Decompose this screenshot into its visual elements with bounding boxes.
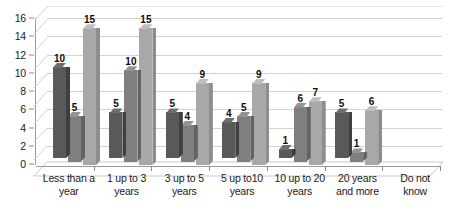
y-axis-tick-mark [29,18,34,19]
bar-value-label: 1 [354,139,360,149]
bar-value-label: 10 [125,57,136,67]
bar-value-label: 5 [339,99,345,109]
x-axis-line [36,166,440,167]
x-axis-tick-mark [94,166,95,171]
x-axis-label-line: 3 up to 5 [155,172,213,185]
y-axis-tick-mark [29,72,34,73]
x-axis-labels: Less than ayear1 up to 3years3 up to 5ye… [40,172,450,214]
x-axis-tick-mark [382,166,383,171]
y-axis-tick-label: 0 [20,158,26,170]
bar-side [96,28,100,165]
x-axis-category-label: 20 yearsand more [329,172,387,198]
x-axis-label-line: 5 up to10 [213,172,271,185]
bar-value-label: 4 [226,109,232,119]
bar-value-label: 4 [185,112,191,122]
x-axis-label-line: years [213,185,271,198]
x-axis-label-line: 20 years [329,172,387,185]
bar-side [348,112,352,158]
bar-face [222,122,235,159]
x-axis-label-line: Do not [386,172,444,185]
x-axis-label-line: know [386,185,444,198]
x-axis-label-line: 1 up to 3 [98,172,156,185]
y-axis-tick-label: 16 [15,12,26,24]
y-axis-tick-label: 12 [15,49,26,61]
bar-face [166,112,179,158]
y-axis-tick-label: 10 [15,67,26,79]
bar-face [335,112,348,158]
bar-chart: 1614121086420 1051551015549459167516 Les… [0,0,453,216]
bar-value-label: 15 [84,15,95,25]
x-axis-tick-mark [209,166,210,171]
x-axis-label-line: years [271,185,329,198]
bar-group: 516 [335,6,391,158]
bar-face [53,67,66,158]
bar-group [392,6,448,158]
y-axis-tick-label: 4 [20,122,26,134]
x-axis-category-label: 3 up to 5years [155,172,213,198]
x-axis-category-label: 10 up to 20years [271,172,329,198]
y-axis: 1614121086420 [0,18,36,164]
bar-group: 167 [279,6,335,158]
bar[interactable]: 4 [222,122,235,159]
y-axis-tick-label: 8 [20,85,26,97]
y-axis-tick-mark [29,36,34,37]
y-axis-line [35,18,36,165]
x-axis-label-line: and more [329,185,387,198]
bar-side [194,125,198,162]
bar-value-label: 5 [170,99,176,109]
x-axis-label-line: Less than a [40,172,98,185]
y-axis-tick-label: 14 [15,30,26,42]
y-axis-tick-mark [29,127,34,128]
bar-side [250,116,254,162]
y-axis-tick-mark [29,164,34,165]
x-axis-category-label: Less than ayear [40,172,98,198]
bar[interactable]: 5 [109,112,122,158]
x-axis-tick-mark [440,166,441,171]
bar-value-label: 6 [297,94,303,104]
y-axis-tick-label: 6 [20,103,26,115]
y-axis-tick-mark [29,54,34,55]
bar[interactable]: 5 [335,112,348,158]
x-axis-label-line: year [40,185,98,198]
y-axis-tick-mark [29,145,34,146]
bar-group: 459 [222,6,278,158]
bar-side [152,28,156,165]
bar-side [265,83,269,165]
bar-side [235,122,239,159]
bar-side [66,67,70,158]
y-axis-tick-mark [29,109,34,110]
bar-side [179,112,183,158]
bar-group: 10515 [53,6,109,158]
bar-value-label: 9 [200,70,206,80]
bar-side [378,110,382,165]
bar-value-label: 5 [241,103,247,113]
x-axis-tick-mark [325,166,326,171]
bar[interactable]: 5 [166,112,179,158]
bar-side [209,83,213,165]
bar-side [122,112,126,158]
x-axis-label-line: years [98,185,156,198]
bar-value-label: 5 [113,99,119,109]
x-axis-category-label: 5 up to10years [213,172,271,198]
bar-value-label: 15 [140,15,151,25]
bar[interactable]: 1 [279,149,292,158]
bar-side [137,70,141,161]
bar-value-label: 9 [256,70,262,80]
bar-value-label: 5 [72,103,78,113]
bar-value-label: 7 [312,88,318,98]
y-axis-tick-label: 2 [20,140,26,152]
x-axis-tick-mark [267,166,268,171]
plot-area: 1051551015549459167516 [47,6,442,166]
x-axis-category-label: 1 up to 3years [98,172,156,198]
x-axis-label-line: years [155,185,213,198]
bar-side [307,107,311,162]
bar-side [81,116,85,162]
bar-value-label: 10 [54,54,65,64]
bar-face [109,112,122,158]
bar-face [279,149,292,158]
y-axis-tick-mark [29,91,34,92]
bar-value-label: 6 [369,97,375,107]
x-axis-category-label: Do notknow [386,172,444,198]
bar[interactable]: 10 [53,67,66,158]
bar-group: 51015 [109,6,165,158]
